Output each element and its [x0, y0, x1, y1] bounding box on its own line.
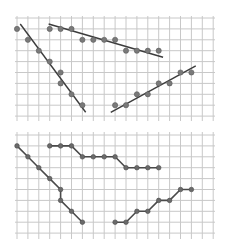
data-point	[80, 155, 85, 160]
data-point	[135, 165, 140, 170]
data-point	[91, 37, 96, 42]
data-point	[58, 144, 63, 149]
data-point	[102, 155, 107, 160]
data-point	[69, 144, 74, 149]
data-point	[113, 155, 118, 160]
data-point	[134, 92, 139, 97]
scatter-panel	[14, 16, 215, 121]
data-point	[189, 70, 194, 75]
data-point	[91, 155, 96, 160]
data-point	[36, 48, 41, 53]
polyline-increasing	[115, 190, 191, 223]
data-point	[135, 209, 140, 214]
fit-line-steep-decreasing	[20, 24, 85, 112]
data-point	[80, 103, 85, 108]
data-point	[47, 59, 52, 64]
data-point	[58, 81, 63, 86]
data-point	[146, 165, 151, 170]
data-point	[156, 165, 161, 170]
data-point	[80, 220, 85, 225]
data-point	[47, 144, 52, 149]
data-point	[156, 198, 161, 203]
data-point	[80, 37, 85, 42]
line-panel	[15, 132, 215, 239]
data-point	[123, 48, 128, 53]
data-point	[26, 155, 31, 160]
data-point	[134, 48, 139, 53]
figure: Scatter points with best-fit lines Point…	[0, 0, 229, 252]
data-point	[58, 187, 63, 192]
data-point	[58, 26, 63, 31]
scatter-panel-content	[14, 24, 195, 112]
data-point	[123, 103, 128, 108]
data-point	[156, 48, 161, 53]
data-point	[102, 37, 107, 42]
data-point	[178, 187, 183, 192]
data-point	[14, 26, 19, 31]
data-point	[113, 220, 118, 225]
data-point	[167, 198, 172, 203]
data-point	[15, 144, 20, 149]
data-point	[146, 209, 151, 214]
data-point	[145, 92, 150, 97]
chart-canvas	[0, 0, 229, 252]
data-point	[37, 165, 42, 170]
data-point	[69, 92, 74, 97]
data-point	[47, 26, 52, 31]
data-point	[47, 176, 52, 181]
data-point	[58, 198, 63, 203]
data-point	[145, 48, 150, 53]
data-point	[69, 209, 74, 214]
data-point	[167, 81, 172, 86]
data-point	[124, 220, 129, 225]
data-point	[178, 70, 183, 75]
data-point	[156, 81, 161, 86]
data-point	[69, 26, 74, 31]
data-point	[113, 37, 118, 42]
data-point	[189, 187, 194, 192]
data-point	[124, 165, 129, 170]
data-point	[25, 37, 30, 42]
data-point	[113, 103, 118, 108]
data-point	[58, 70, 63, 75]
